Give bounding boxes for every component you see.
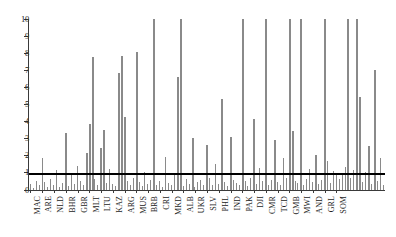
x-tick-label-phl: PHL [222, 196, 230, 211]
bar [94, 179, 95, 190]
bar [47, 187, 48, 190]
x-tick-label-pak: PAK [246, 196, 254, 212]
x-tick-label-dji: DJI [257, 196, 265, 208]
bar [124, 117, 126, 190]
y-tick-label: 6 [9, 83, 29, 92]
x-tick [30, 190, 31, 193]
x-tick [160, 190, 161, 193]
x-tick-label-cri: CRI [163, 196, 171, 210]
bar [150, 180, 151, 190]
bar [345, 167, 346, 190]
x-tick [278, 190, 279, 193]
bar [309, 169, 310, 190]
bar [306, 179, 307, 190]
bar [286, 178, 287, 190]
bar [227, 186, 228, 190]
x-tick [301, 190, 302, 193]
x-tick-label-slv: SLV [210, 196, 218, 211]
bar [115, 186, 116, 190]
x-tick-label-arg: ARG [128, 196, 136, 213]
x-tick [266, 190, 267, 193]
bar [324, 19, 326, 190]
bar-chart: 012345678910 MACARENLDBHRGBRMLTLTUKAZARG… [0, 0, 396, 237]
x-tick [207, 190, 208, 193]
bar [268, 185, 269, 190]
bar [200, 180, 201, 190]
bar [100, 148, 102, 190]
bar [89, 124, 91, 190]
bar [221, 99, 223, 190]
bar [159, 181, 160, 190]
bar [174, 175, 175, 190]
reference-line [29, 173, 385, 175]
bar [103, 130, 105, 190]
bar [77, 166, 78, 190]
bar [212, 185, 213, 190]
bar [74, 184, 75, 190]
x-tick [54, 190, 55, 193]
x-tick [289, 190, 290, 193]
bar [277, 182, 278, 190]
x-tick [113, 190, 114, 193]
bar [121, 56, 123, 190]
y-tick-label: 5 [9, 100, 29, 109]
x-tick-label-alb: ALB [187, 196, 195, 212]
y-tick-label: 2 [9, 151, 29, 160]
bar [300, 19, 302, 190]
bar [156, 185, 157, 190]
bar [142, 186, 143, 190]
x-tick [66, 190, 67, 193]
bar [44, 182, 45, 190]
bar [342, 175, 343, 190]
x-tick [336, 190, 337, 193]
bar [280, 185, 281, 190]
bar [336, 174, 337, 190]
x-tick-label-brb: BRB [151, 196, 159, 212]
bar [359, 97, 361, 190]
x-tick-label-grl: GRL [328, 196, 336, 212]
x-tick-label-ind: IND [234, 196, 242, 211]
y-tick-label: 8 [9, 49, 29, 58]
bar [330, 183, 331, 190]
bar [130, 185, 131, 190]
y-tick-label: 4 [9, 117, 29, 126]
bar [39, 185, 40, 190]
x-tick-label-mac: MAC [34, 196, 42, 215]
x-tick-label-are: ARE [45, 196, 53, 212]
bar [250, 178, 251, 190]
bar [239, 185, 240, 190]
bar [371, 184, 372, 190]
x-tick-label-tcd: TCD [281, 196, 289, 212]
bar [347, 19, 349, 190]
bar [289, 19, 291, 190]
bar [133, 178, 134, 190]
bar [92, 57, 94, 190]
bar [230, 137, 232, 190]
bar [356, 19, 358, 190]
bar [139, 182, 140, 190]
bar [65, 133, 67, 190]
bar [197, 182, 198, 190]
y-tick-label: 0 [9, 186, 29, 195]
bar [339, 179, 340, 190]
bar [274, 140, 276, 190]
bar [321, 180, 322, 190]
x-tick-label-mkd: MKD [175, 196, 183, 215]
bar [233, 180, 234, 190]
bar [245, 181, 246, 190]
bar [383, 185, 384, 190]
y-axis: 012345678910 [0, 0, 29, 237]
bar [68, 186, 69, 190]
x-tick [172, 190, 173, 193]
x-tick [325, 190, 326, 193]
bar [162, 187, 163, 190]
x-tick-label-cmr: CMR [269, 196, 277, 214]
x-tick-label-bhr: BHR [69, 196, 77, 213]
x-tick [148, 190, 149, 193]
bar [318, 184, 319, 190]
bar [256, 184, 257, 190]
y-tick-label: 9 [9, 32, 29, 41]
x-tick [78, 190, 79, 193]
x-tick [136, 190, 137, 193]
bar [209, 178, 210, 190]
